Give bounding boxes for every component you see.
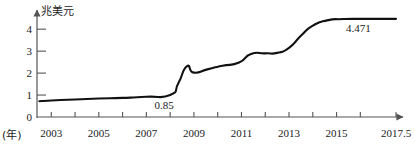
point-label-4471: 4.471 bbox=[346, 23, 371, 34]
data-series-group bbox=[39, 19, 396, 101]
x-tick-label: 2003 bbox=[25, 128, 77, 139]
x-axis-title: (年) bbox=[2, 130, 22, 141]
y-tick-label: 0 bbox=[18, 112, 32, 123]
x-tick-label: 2005 bbox=[73, 128, 125, 139]
x-tick-label: 2017.5 bbox=[370, 128, 416, 139]
x-tick-label: 2011 bbox=[215, 128, 267, 139]
y-tick-label: 2 bbox=[18, 68, 32, 79]
y-tick-label: 4 bbox=[18, 24, 32, 35]
x-tick-label: 2007 bbox=[120, 128, 172, 139]
ticks-group bbox=[37, 29, 396, 117]
x-tick-label: 2015 bbox=[311, 128, 363, 139]
data-line bbox=[39, 19, 396, 101]
y-tick-label: 1 bbox=[18, 90, 32, 101]
y-axis-title: 兆美元 bbox=[41, 6, 74, 17]
y-tick-label: 3 bbox=[18, 46, 32, 57]
point-label-085: 0.85 bbox=[155, 100, 174, 111]
x-tick-label: 2013 bbox=[263, 128, 315, 139]
x-tick-label: 2009 bbox=[168, 128, 220, 139]
